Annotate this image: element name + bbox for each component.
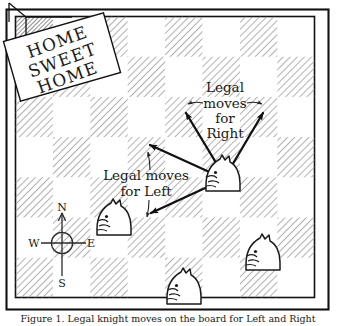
board-square — [90, 258, 127, 298]
left-label-line-1: Legal moves — [103, 167, 189, 183]
board-square — [277, 137, 314, 177]
board-square — [90, 97, 127, 137]
compass-label-east: E — [87, 237, 95, 250]
board-square — [277, 218, 314, 258]
right-label-line-3: for — [215, 110, 235, 126]
right-label-line-2: moves — [203, 95, 247, 111]
board-square — [240, 177, 277, 217]
compass-label-west: W — [28, 237, 40, 250]
compass-label-south: S — [58, 277, 66, 290]
board-square — [165, 17, 202, 57]
right-label-line-4: Right — [206, 125, 244, 141]
board-square — [277, 57, 314, 97]
figure-page: HOME SWEET HOME Legal moves for Right — [0, 0, 337, 326]
chessboard-figure: HOME SWEET HOME Legal moves for Right — [0, 0, 337, 326]
board-square — [16, 258, 53, 298]
figure-caption: Figure 1. Legal knight moves on the boar… — [20, 313, 315, 324]
board-square — [128, 218, 165, 258]
board-square — [240, 17, 277, 57]
left-label-line-2: for Left — [120, 183, 172, 199]
board-square — [16, 97, 53, 137]
board-square — [16, 177, 53, 217]
board-square — [53, 137, 90, 177]
compass-label-north: N — [57, 201, 67, 214]
board-square — [128, 57, 165, 97]
right-label-line-1: Legal — [206, 79, 244, 95]
board-square — [203, 218, 240, 258]
